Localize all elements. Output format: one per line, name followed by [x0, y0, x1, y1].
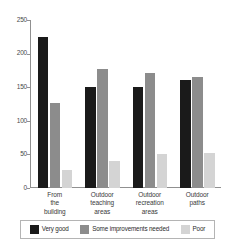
y-axis-tick: 150 [0, 81, 30, 93]
y-axis-tick-mark [27, 121, 30, 122]
legend-item[interactable]: Some improvements needed [80, 225, 169, 234]
y-axis-tick-mark [27, 20, 30, 21]
legend-label: Very good [42, 226, 69, 232]
y-axis-tick-mark [27, 54, 30, 55]
y-axis-tick: 50 [0, 148, 30, 160]
y-axis-tick-mark [27, 154, 30, 155]
bar-group [31, 20, 79, 188]
legend-swatch [30, 225, 39, 234]
bar-group [174, 20, 222, 188]
x-axis-category-label-line: areas [126, 208, 174, 216]
x-axis-category-label-line: recreation [126, 199, 174, 207]
x-axis-category-label-line: building [31, 208, 79, 216]
bar[interactable] [133, 87, 144, 188]
y-axis-tick: 0 [0, 182, 30, 194]
x-axis-category-label-line: Outdoor [126, 191, 174, 199]
y-axis-tick-mark [27, 188, 30, 189]
x-axis-category-label-line: areas [79, 208, 127, 216]
legend-swatch [181, 225, 190, 234]
y-axis-tick: 200 [0, 48, 30, 60]
y-axis-tick: 250 [0, 14, 30, 26]
bar-chart: 050100150200250 FromthebuildingOutdoorte… [0, 0, 233, 251]
bar[interactable] [50, 103, 61, 188]
x-axis-category-label-line: the [31, 199, 79, 207]
bar[interactable] [85, 87, 96, 188]
x-axis-category-label: Outdoorrecreationareas [126, 191, 174, 216]
x-axis-category-label-line: From [31, 191, 79, 199]
x-axis-category-label-line: Outdoor [174, 191, 222, 199]
y-axis-tick: 100 [0, 115, 30, 127]
legend-item[interactable]: Very good [30, 225, 69, 234]
bar[interactable] [157, 154, 168, 188]
x-axis-category-label: Outdoorteachingareas [79, 191, 127, 216]
bar[interactable] [145, 73, 156, 188]
legend-label: Some improvements needed [92, 226, 169, 232]
x-axis-category-label-line: Outdoor [79, 191, 127, 199]
bar[interactable] [192, 77, 203, 188]
bar[interactable] [62, 170, 73, 188]
x-axis-category-labels: FromthebuildingOutdoorteachingareasOutdo… [31, 191, 221, 219]
legend-swatch [80, 225, 89, 234]
x-axis-category-label-line: teaching [79, 199, 127, 207]
bar[interactable] [180, 80, 191, 188]
bar[interactable] [109, 161, 120, 188]
bar-group [126, 20, 174, 188]
bar[interactable] [204, 153, 215, 188]
x-axis-category-label: Fromthebuilding [31, 191, 79, 216]
x-axis-category-label: Outdoorpaths [174, 191, 222, 208]
x-axis-category-label-line: paths [174, 199, 222, 207]
bars-layer [31, 20, 221, 188]
legend-item[interactable]: Poor [181, 225, 206, 234]
bar[interactable] [97, 69, 108, 188]
y-axis-tick-mark [27, 87, 30, 88]
legend-label: Poor [193, 226, 206, 232]
bar-group [79, 20, 127, 188]
y-axis: 050100150200250 [0, 14, 30, 190]
chart-legend: Very goodSome improvements neededPoor [20, 220, 215, 239]
bar[interactable] [38, 37, 49, 188]
